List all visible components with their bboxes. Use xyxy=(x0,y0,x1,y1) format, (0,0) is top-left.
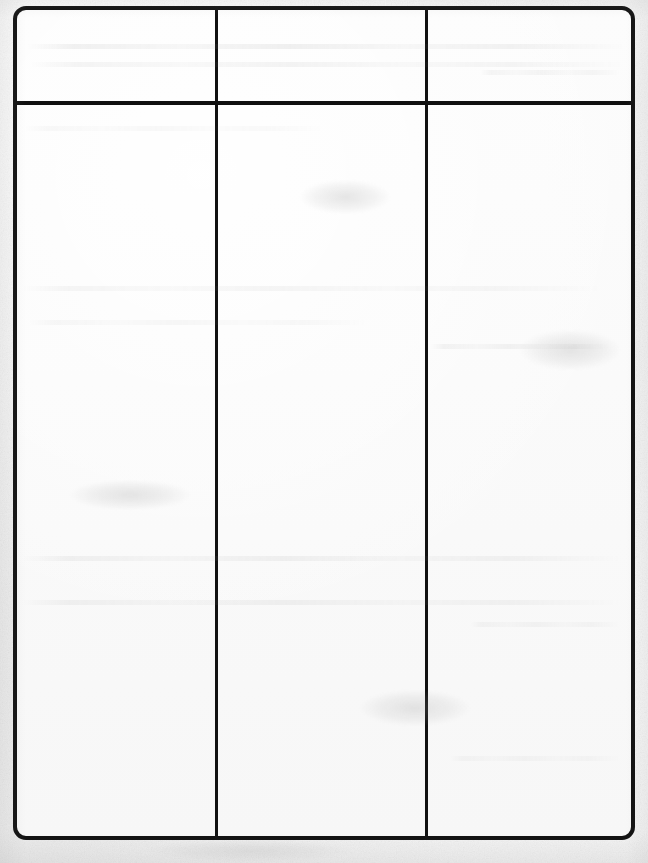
column-divider-2-header xyxy=(425,6,428,101)
body-cell-3[interactable] xyxy=(428,101,631,836)
table-header-row xyxy=(17,10,631,101)
header-cell-3[interactable] xyxy=(428,10,631,101)
form-table xyxy=(13,6,635,840)
header-cell-2[interactable] xyxy=(218,10,425,101)
header-cell-1[interactable] xyxy=(17,10,215,101)
column-divider-1-header xyxy=(215,6,218,101)
column-divider-1 xyxy=(215,101,218,840)
body-cell-1[interactable] xyxy=(17,101,215,836)
scanned-page xyxy=(0,0,648,863)
table-row xyxy=(17,101,631,836)
column-divider-2 xyxy=(425,101,428,840)
body-cell-2[interactable] xyxy=(218,101,425,836)
